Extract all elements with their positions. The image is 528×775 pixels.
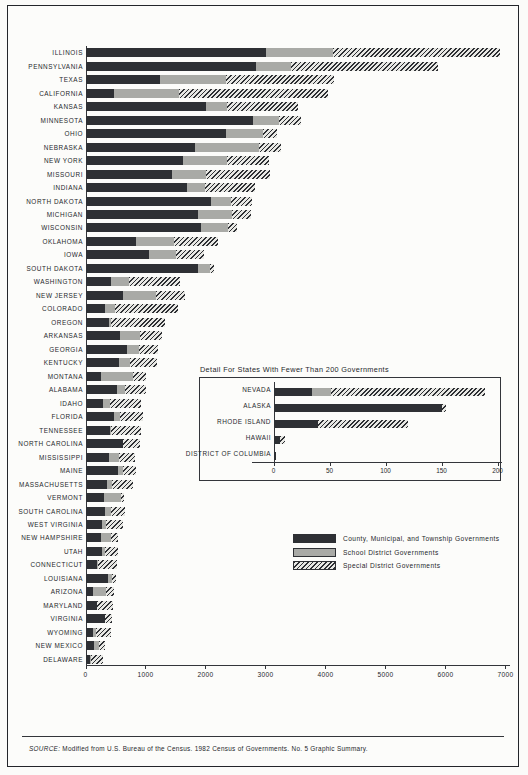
inset-x-axis-line xyxy=(252,462,502,463)
chart-page: ILLINOISPENNSYLVANIATEXASCALIFORNIAKANSA… xyxy=(0,0,528,775)
inset-x-tick-label: 150 xyxy=(436,467,447,474)
inset-bar-segment-cmt xyxy=(274,452,276,460)
legend-swatch-cmt-icon xyxy=(293,534,336,543)
inset-bar-segment-sch xyxy=(312,388,331,396)
source-prefix: SOURCE: xyxy=(29,745,60,752)
inset-bar-segment-cmt xyxy=(274,404,442,412)
inset-x-tick-label: 50 xyxy=(326,467,333,474)
inset-bar-segment-spd xyxy=(318,420,409,428)
legend-label-school: School District Governments xyxy=(343,549,439,556)
legend-label-cmt: County, Municipal, and Township Governme… xyxy=(343,535,500,542)
legend-label-special: Special District Governments xyxy=(343,562,441,569)
inset-y-label: RHODE ISLAND xyxy=(217,418,271,426)
legend-item-special: Special District Governments xyxy=(293,560,500,571)
inset-y-label: ALASKA xyxy=(243,402,271,410)
inset-x-tick-label: 200 xyxy=(492,467,503,474)
inset-bar-segment-cmt xyxy=(274,420,318,428)
inset-y-label: NEVADA xyxy=(242,386,271,394)
legend-item-cmt: County, Municipal, and Township Governme… xyxy=(293,533,500,544)
inset-x-tick-label: 0 xyxy=(272,467,276,474)
inset-title: Detail For States With Fewer Than 200 Go… xyxy=(200,365,389,374)
inset-bar-segment-cmt xyxy=(274,388,312,396)
legend-item-school: School District Governments xyxy=(293,547,500,558)
inset-x-tick-label: 100 xyxy=(380,467,391,474)
inset-plot-bars xyxy=(274,384,498,462)
source-note: SOURCE: Modified from U.S. Bureau of the… xyxy=(29,745,368,752)
source-text: Modified from U.S. Bureau of the Census.… xyxy=(60,745,368,752)
inset-x-tick xyxy=(498,462,499,466)
inset-y-label: HAWAII xyxy=(246,434,271,442)
inset-y-label: DISTRICT OF COLUMBIA xyxy=(186,450,271,458)
inset-detail-chart: Detail For States With Fewer Than 200 Go… xyxy=(0,0,528,775)
legend-swatch-school-icon xyxy=(293,548,336,557)
footer-divider xyxy=(22,736,504,737)
inset-bar-segment-spd xyxy=(280,436,286,444)
chart-legend: County, Municipal, and Township Governme… xyxy=(293,533,500,574)
inset-x-tick xyxy=(274,462,275,466)
legend-swatch-special-icon xyxy=(293,561,336,570)
inset-x-tick xyxy=(330,462,331,466)
inset-x-tick xyxy=(442,462,443,466)
inset-bar-segment-spd xyxy=(331,388,484,396)
inset-y-axis-labels: NEVADAALASKARHODE ISLANDHAWAIIDISTRICT O… xyxy=(185,382,271,462)
inset-x-tick xyxy=(386,462,387,466)
inset-bar-segment-spd xyxy=(442,404,446,412)
